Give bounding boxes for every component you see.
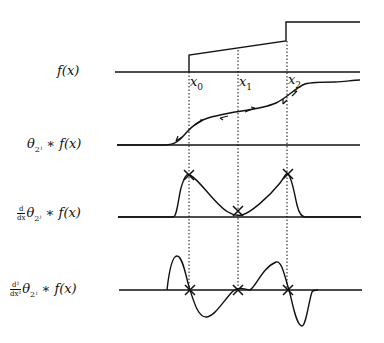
marker-x2-d1 (283, 169, 293, 179)
label-f: f(x) (57, 63, 79, 78)
tick-x0: x0 (190, 74, 203, 92)
arrow-marks (176, 91, 297, 141)
tick-x2: x2 (288, 72, 301, 90)
tick-x1: x1 (239, 74, 252, 92)
label-second-derivative: d²dx²θ2ʲ ∗ f(x) (10, 281, 77, 299)
dotted-guides (189, 41, 287, 290)
label-first-derivative: ddxθ2ʲ ∗ f(x) (17, 205, 81, 223)
curve-f (189, 22, 360, 72)
label-smoothed: θ2ʲ ∗ f(x) (27, 136, 81, 154)
